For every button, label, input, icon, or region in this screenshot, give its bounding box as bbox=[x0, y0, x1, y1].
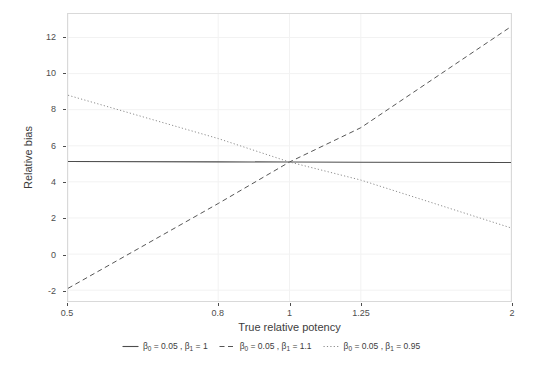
y-tick-mark bbox=[63, 146, 66, 147]
chart-figure: -2024681012 0.50.811.252 True relative p… bbox=[0, 0, 542, 372]
y-tick-mark bbox=[63, 109, 66, 110]
y-tick-mark bbox=[63, 37, 66, 38]
x-tick-label: 0.8 bbox=[212, 309, 225, 318]
dashed-line-key bbox=[219, 342, 236, 351]
x-tick-mark bbox=[512, 303, 513, 306]
plot-panel bbox=[67, 13, 512, 302]
y-tick-mark bbox=[63, 182, 66, 183]
x-tick-label: 0.5 bbox=[61, 309, 74, 318]
legend-label: β0 = 0.05 , β1 = 1.1 bbox=[240, 342, 312, 351]
x-tick-label: 1 bbox=[287, 309, 292, 318]
y-tick-mark bbox=[63, 218, 66, 219]
x-tick-mark bbox=[290, 303, 291, 306]
legend-label: β0 = 0.05 , β1 = 0.95 bbox=[344, 342, 421, 351]
y-tick-mark bbox=[63, 291, 66, 292]
legend-item-dotted[interactable]: β0 = 0.05 , β1 = 0.95 bbox=[323, 342, 421, 351]
y-tick-mark bbox=[63, 255, 66, 256]
y-tick-mark bbox=[63, 73, 66, 74]
x-tick-mark bbox=[361, 303, 362, 306]
x-axis-title: True relative potency bbox=[67, 321, 512, 333]
gridlines bbox=[68, 14, 511, 301]
legend-label: β0 = 0.05 , β1 = 1 bbox=[143, 342, 208, 351]
dotted-line-key bbox=[323, 342, 340, 351]
solid-line-key bbox=[122, 342, 139, 351]
chart-legend: β0 = 0.05 , β1 = 1β0 = 0.05 , β1 = 1.1β0… bbox=[0, 342, 542, 351]
plot-area bbox=[68, 14, 511, 301]
x-tick-label: 1.25 bbox=[352, 309, 370, 318]
legend-item-solid[interactable]: β0 = 0.05 , β1 = 1 bbox=[122, 342, 208, 351]
x-tick-mark bbox=[67, 303, 68, 306]
x-tick-label: 2 bbox=[509, 309, 514, 318]
x-tick-mark bbox=[218, 303, 219, 306]
legend-item-dashed[interactable]: β0 = 0.05 , β1 = 1.1 bbox=[219, 342, 312, 351]
y-axis-title: Relative bias bbox=[22, 13, 34, 302]
